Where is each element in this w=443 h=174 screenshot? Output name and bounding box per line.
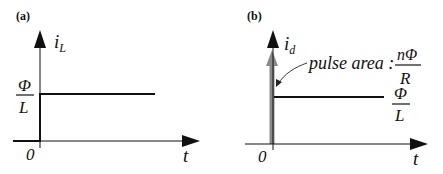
annotation-numerator: nΦ	[397, 46, 417, 63]
origin-label: 0	[258, 147, 267, 166]
annotation-leader	[278, 63, 307, 84]
panel-a-label: (a)	[16, 9, 30, 23]
level-numerator: Φ	[18, 76, 31, 95]
panel-b: (b) id pulse area : nΦ R Φ L 0 t	[245, 9, 428, 169]
annotation-text: pulse area :	[307, 53, 394, 73]
impulse-arrow-icon	[266, 50, 278, 66]
diagram-canvas: (a) iL Φ L 0 t (b) id p	[0, 0, 443, 174]
x-axis-label: t	[413, 148, 419, 169]
y-axis-label: iL	[54, 31, 66, 55]
x-axis-label: t	[183, 145, 189, 166]
y-axis-arrow-icon	[34, 30, 46, 48]
y-axis-label: id	[284, 33, 296, 57]
panel-b-label: (b)	[247, 9, 262, 23]
level-denominator: L	[394, 106, 404, 125]
origin-label: 0	[26, 145, 35, 164]
y-axis-arrow-icon	[267, 30, 279, 48]
panel-a: (a) iL Φ L 0 t	[13, 9, 200, 166]
signal-step	[13, 94, 155, 141]
level-denominator: L	[18, 98, 28, 117]
level-numerator: Φ	[394, 84, 407, 103]
